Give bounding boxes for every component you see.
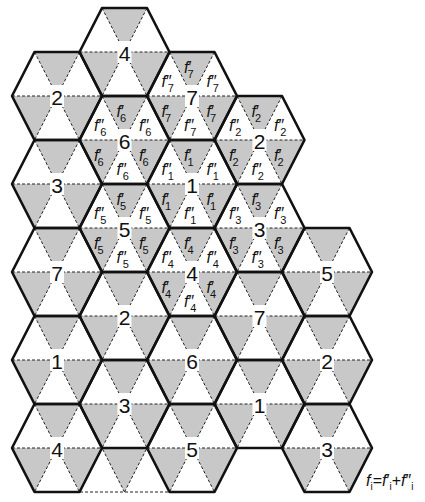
f-double-prime-label: f″4 bbox=[184, 293, 196, 314]
f-double-prime-label: f″6 bbox=[94, 117, 106, 138]
cell-number-label: 1 bbox=[51, 350, 63, 373]
cell-number-label: 1 bbox=[186, 174, 198, 197]
f-double-prime-label: f″7 bbox=[184, 117, 196, 138]
cell-number-label: 5 bbox=[321, 262, 333, 285]
shaded-sector bbox=[102, 448, 147, 492]
cell-number-label: 5 bbox=[119, 218, 131, 241]
cell-number-label: 2 bbox=[51, 86, 63, 109]
cell-number-label: 2 bbox=[254, 130, 266, 153]
f-double-prime-label: f″6 bbox=[117, 161, 129, 182]
cell-number-label: 3 bbox=[254, 218, 266, 241]
f-double-prime-label: f″1 bbox=[184, 205, 196, 226]
cell-number-label: 3 bbox=[51, 174, 63, 197]
hex-cell-diagram: f′6f′6f′6f″6f″6f″6f′5f′5f′5f″5f″5f″5f′7f… bbox=[0, 0, 425, 502]
f-double-prime-label: f″1 bbox=[207, 161, 219, 182]
f-double-prime-label: f″2 bbox=[229, 117, 241, 138]
f-double-prime-label: f″4 bbox=[162, 249, 174, 270]
f-double-prime-label: f″1 bbox=[162, 161, 174, 182]
cell-number-label: 4 bbox=[186, 262, 198, 285]
f-double-prime-label: f″3 bbox=[229, 205, 241, 226]
cell-number-label: 7 bbox=[51, 262, 63, 285]
cell-number-label: 7 bbox=[186, 86, 198, 109]
f-double-prime-label: f″5 bbox=[117, 249, 129, 270]
cell-number-label: 2 bbox=[321, 350, 333, 373]
cell-number-label: 4 bbox=[119, 42, 131, 65]
f-double-prime-label: f″5 bbox=[139, 205, 151, 226]
f-double-prime-label: f″2 bbox=[274, 117, 286, 138]
cell-number-label: 5 bbox=[186, 438, 198, 461]
cell-number-label: 3 bbox=[321, 438, 333, 461]
cell-number-label: 1 bbox=[254, 394, 266, 417]
formula-legend: fi=f′i+f″i bbox=[366, 472, 413, 492]
cell-number-label: 6 bbox=[119, 130, 131, 153]
cell-number-label: 2 bbox=[119, 306, 131, 329]
f-double-prime-label: f″4 bbox=[207, 249, 219, 270]
f-double-prime-label: f″2 bbox=[252, 161, 264, 182]
f-double-prime-label: f″5 bbox=[94, 205, 106, 226]
cell-number-label: 7 bbox=[254, 306, 266, 329]
f-double-prime-label: f″7 bbox=[207, 73, 219, 94]
cell-number-label: 4 bbox=[51, 438, 63, 461]
f-double-prime-label: f″3 bbox=[252, 249, 264, 270]
cell-number-label: 6 bbox=[186, 350, 198, 373]
f-double-prime-label: f″6 bbox=[139, 117, 151, 138]
cell-number-label: 3 bbox=[119, 394, 131, 417]
f-double-prime-label: f″7 bbox=[162, 73, 174, 94]
f-double-prime-label: f″3 bbox=[274, 205, 286, 226]
